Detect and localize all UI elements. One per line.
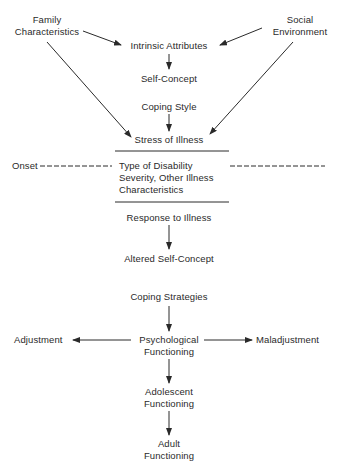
label-line: Severity, Other Illness xyxy=(119,172,214,184)
node-coping-style: Coping Style xyxy=(119,101,219,113)
node-social-environment: Social Environment xyxy=(270,14,330,38)
label-line: Adolescent xyxy=(129,386,209,398)
node-adolescent-functioning: Adolescent Functioning xyxy=(129,386,209,410)
node-coping-strategies: Coping Strategies xyxy=(109,291,229,303)
node-self-concept: Self-Concept xyxy=(119,73,219,85)
node-psychological-functioning: Psychological Functioning xyxy=(129,334,209,358)
edge-family-to-stress xyxy=(47,42,131,137)
label-line: Functioning xyxy=(129,450,209,462)
label-line: Characteristics xyxy=(12,26,82,38)
node-intrinsic-attributes: Intrinsic Attributes xyxy=(114,40,224,52)
node-maladjustment: Maladjustment xyxy=(256,334,319,346)
label-line: Adult xyxy=(129,438,209,450)
node-illness-characteristics: Type of Disability Severity, Other Illne… xyxy=(119,160,214,196)
label-line: Family xyxy=(12,14,82,26)
label-line: Psychological xyxy=(129,334,209,346)
edge-social-to-intrinsic xyxy=(220,28,262,45)
label-line: Characteristics xyxy=(119,184,214,196)
node-adult-functioning: Adult Functioning xyxy=(129,438,209,462)
label-line: Functioning xyxy=(129,346,209,358)
label-line: Functioning xyxy=(129,398,209,410)
node-adjustment: Adjustment xyxy=(14,334,63,346)
label-line: Type of Disability xyxy=(119,160,214,172)
node-onset: Onset xyxy=(12,160,38,172)
node-stress-of-illness: Stress of Illness xyxy=(119,134,219,146)
edge-social-to-stress xyxy=(210,42,293,134)
node-altered-self-concept: Altered Self-Concept xyxy=(104,253,234,265)
node-family-characteristics: Family Characteristics xyxy=(12,14,82,38)
node-response-to-illness: Response to Illness xyxy=(109,212,229,224)
label-line: Environment xyxy=(270,26,330,38)
label-line: Social xyxy=(270,14,330,26)
